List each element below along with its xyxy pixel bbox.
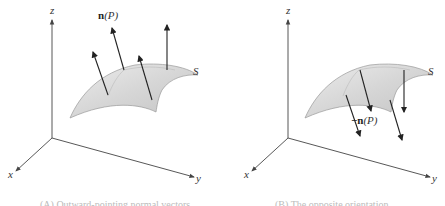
normal-label: −n(P) <box>351 114 378 127</box>
panel-a: z x y S n(P) <box>7 4 201 184</box>
x-axis-label: x <box>7 168 13 180</box>
surface-a: S <box>70 64 199 118</box>
panel-b: z x y S −n(P) <box>243 4 437 184</box>
y-axis <box>288 138 430 177</box>
surface-label: S <box>193 65 199 77</box>
x-axis-label: x <box>243 168 249 180</box>
y-axis <box>52 138 194 177</box>
x-axis <box>252 138 288 171</box>
z-axis-label: z <box>285 4 291 16</box>
y-axis-label: y <box>195 172 201 184</box>
surface-label: S <box>428 65 434 77</box>
normal-label: n(P) <box>98 9 119 22</box>
surface-b: S <box>305 64 434 118</box>
z-axis-label: z <box>49 4 55 16</box>
normal-arrow <box>112 28 124 70</box>
caption-a: (A) Outward-pointing normal vectors <box>40 199 190 206</box>
x-axis <box>16 138 52 171</box>
figure-canvas: z x y S n(P) z x y <box>0 0 445 206</box>
normal-arrow <box>390 100 402 140</box>
y-axis-label: y <box>431 172 437 184</box>
caption-b: (B) The opposite orientation <box>275 199 388 206</box>
